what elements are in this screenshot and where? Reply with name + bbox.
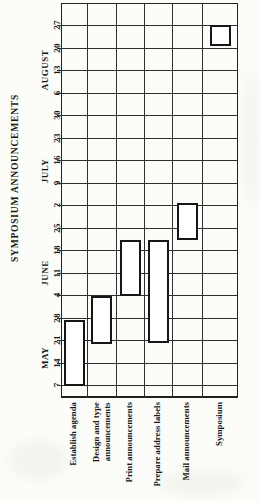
grid-line-week [57, 93, 238, 94]
grid-line-task-column [116, 3, 117, 398]
month-label: AUGUST [40, 50, 51, 91]
task-bar [177, 203, 198, 240]
task-label: Design and type announcements [90, 402, 113, 462]
task-label: Print announcements [124, 402, 136, 482]
scan-smudge [160, 470, 245, 496]
grid-line-task-column [87, 3, 88, 398]
grid-line-week [57, 160, 238, 161]
task-bar [120, 240, 141, 296]
month-label: MAY [40, 347, 51, 369]
task-bar [64, 320, 85, 386]
grid-line-week [57, 70, 238, 71]
month-label: JUNE [40, 260, 51, 286]
grid-line-week [57, 48, 238, 49]
task-label: Prepare address labels [152, 402, 164, 487]
grid-line-week [57, 138, 238, 139]
task-bar [148, 240, 169, 343]
grid-line-task-column [144, 3, 145, 398]
task-label: Mail announcements [181, 402, 193, 480]
scan-smudge [243, 70, 259, 210]
task-bar [210, 25, 231, 46]
chart-title: SYMPOSIUM ANNOUNCEMENTS [10, 94, 21, 262]
task-label: Establish agenda [68, 402, 80, 466]
grid-line-week [57, 115, 238, 116]
grid-line-week [57, 205, 238, 206]
grid-line-task-column [172, 3, 173, 398]
grid-line-week [57, 228, 238, 229]
grid-line-week [57, 183, 238, 184]
task-bar [91, 296, 112, 344]
task-label: Symposium [214, 402, 226, 446]
month-label: JULY [40, 159, 51, 184]
scan-smudge [8, 440, 68, 480]
gantt-chart-figure: SYMPOSIUM ANNOUNCEMENTS 7142128411182529… [0, 0, 260, 501]
grid-line-task-column [202, 3, 203, 398]
